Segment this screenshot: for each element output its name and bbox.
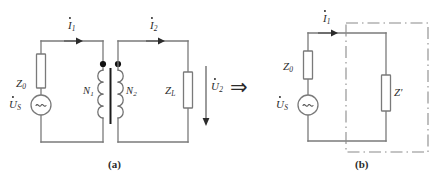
panel-b-group <box>298 23 428 152</box>
label-primary-turns: N1 <box>83 86 94 98</box>
transformer-primary-coil <box>98 70 103 118</box>
ac-source-symbol <box>31 95 51 115</box>
source-impedance-resistor <box>37 54 46 88</box>
label-source-impedance-a: Z0 <box>16 78 26 91</box>
label-output-voltage: U2 <box>211 81 223 94</box>
equiv-source-impedance-resistor <box>304 51 313 79</box>
label-source-impedance-b: Z0 <box>283 61 293 74</box>
polarity-dot-primary <box>100 61 106 67</box>
output-voltage-arrow <box>203 66 210 126</box>
transformer-secondary-coil <box>118 70 123 118</box>
panel-a-group <box>31 38 209 142</box>
transform-arrow: ⇒ <box>230 77 248 98</box>
secondary-current-arrow <box>146 38 165 45</box>
label-secondary-turns: N2 <box>126 86 137 98</box>
equiv-ac-source-symbol <box>298 95 318 115</box>
label-reflected-impedance: Z' <box>394 87 402 98</box>
label-equiv-current: I1 <box>323 13 331 26</box>
label-source-voltage-b: US <box>276 99 288 112</box>
panel-a-caption: (a) <box>108 158 121 170</box>
reflected-impedance-resistor <box>382 75 391 111</box>
panel-b-caption: (b) <box>355 158 368 170</box>
equiv-current-arrow <box>318 30 338 37</box>
circuit-figure: Z0 US N1 N2 ZL I1 I2 U2 (a) ⇒ Z0 US Z' I… <box>0 0 437 184</box>
label-primary-current: I1 <box>68 20 76 33</box>
primary-current-arrow <box>64 38 83 45</box>
load-impedance-resistor <box>184 72 193 108</box>
label-source-voltage-a: US <box>9 99 21 112</box>
label-load-impedance: ZL <box>165 85 175 98</box>
equivalent-loop-wires <box>308 33 386 141</box>
label-secondary-current: I2 <box>150 20 158 33</box>
